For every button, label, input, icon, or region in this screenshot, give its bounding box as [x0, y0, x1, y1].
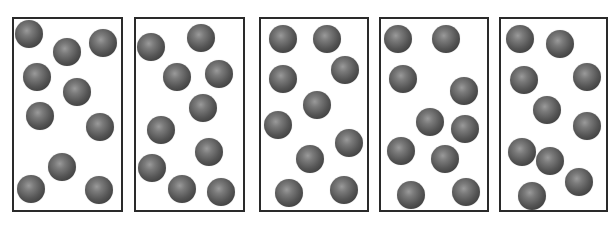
particle-sphere-icon: [330, 176, 358, 204]
particle-sphere-icon: [86, 113, 114, 141]
particle-sphere-icon: [313, 25, 341, 53]
particle-sphere-icon: [23, 63, 51, 91]
particle-sphere-icon: [452, 178, 480, 206]
particle-sphere-icon: [26, 102, 54, 130]
particle-sphere-icon: [546, 30, 574, 58]
particle-sphere-icon: [506, 25, 534, 53]
particle-sphere-icon: [89, 29, 117, 57]
particle-sphere-icon: [207, 178, 235, 206]
particle-sphere-icon: [189, 94, 217, 122]
particle-sphere-icon: [163, 63, 191, 91]
particle-sphere-icon: [565, 168, 593, 196]
particle-sphere-icon: [432, 25, 460, 53]
particle-sphere-icon: [275, 179, 303, 207]
particle-sphere-icon: [137, 33, 165, 61]
particle-sphere-icon: [416, 108, 444, 136]
particle-sphere-icon: [387, 137, 415, 165]
particle-sphere-icon: [187, 24, 215, 52]
particle-sphere-icon: [264, 111, 292, 139]
particle-sphere-icon: [85, 176, 113, 204]
particle-sphere-icon: [536, 147, 564, 175]
particle-sphere-icon: [389, 65, 417, 93]
particle-sphere-icon: [397, 181, 425, 209]
particle-sphere-icon: [53, 38, 81, 66]
particle-sphere-icon: [147, 116, 175, 144]
particle-sphere-icon: [269, 65, 297, 93]
particle-sphere-icon: [17, 175, 45, 203]
particle-sphere-icon: [573, 112, 601, 140]
particle-sphere-icon: [303, 91, 331, 119]
particle-sphere-icon: [508, 138, 536, 166]
particle-sphere-icon: [331, 56, 359, 84]
particle-sphere-icon: [168, 175, 196, 203]
particle-sphere-icon: [510, 66, 538, 94]
particle-sphere-icon: [384, 25, 412, 53]
particle-sphere-icon: [15, 20, 43, 48]
particle-sphere-icon: [335, 129, 363, 157]
particle-sphere-icon: [63, 78, 91, 106]
particle-sphere-icon: [296, 145, 324, 173]
particle-sphere-icon: [205, 60, 233, 88]
particle-sphere-icon: [533, 96, 561, 124]
particle-sphere-icon: [269, 25, 297, 53]
particle-sphere-icon: [431, 145, 459, 173]
particle-sphere-icon: [450, 77, 478, 105]
particle-sphere-icon: [195, 138, 223, 166]
particle-sphere-icon: [138, 154, 166, 182]
particle-sphere-icon: [573, 63, 601, 91]
particle-sphere-icon: [451, 115, 479, 143]
particle-sphere-icon: [518, 182, 546, 210]
particle-sphere-icon: [48, 153, 76, 181]
